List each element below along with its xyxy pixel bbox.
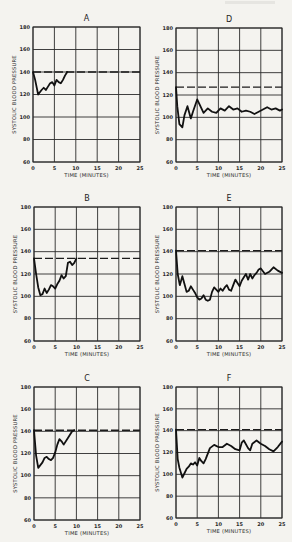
chart-f: F05101520256080100120140160180TIME (MINU… bbox=[0, 0, 292, 542]
svg-text:160: 160 bbox=[163, 406, 174, 412]
svg-text:100: 100 bbox=[163, 471, 174, 477]
x-axis-label: TIME (MINUTES) bbox=[206, 528, 251, 534]
bp-curve bbox=[176, 430, 282, 478]
y-tick-labels: 6080100120140160180 bbox=[163, 384, 174, 521]
svg-text:0: 0 bbox=[174, 521, 178, 527]
chart-title: F bbox=[227, 374, 232, 383]
svg-text:180: 180 bbox=[163, 384, 174, 390]
svg-text:140: 140 bbox=[163, 427, 174, 433]
svg-text:25: 25 bbox=[279, 521, 286, 527]
svg-text:10: 10 bbox=[215, 521, 222, 527]
chart-panel-f: F05101520256080100120140160180TIME (MINU… bbox=[0, 0, 292, 542]
y-axis-label: SYSTOLIC BLOOD PRESSURE bbox=[154, 413, 160, 492]
svg-text:60: 60 bbox=[166, 515, 173, 521]
svg-text:20: 20 bbox=[257, 521, 264, 527]
svg-text:15: 15 bbox=[236, 521, 243, 527]
svg-text:120: 120 bbox=[163, 449, 174, 455]
svg-text:5: 5 bbox=[195, 521, 199, 527]
svg-text:80: 80 bbox=[166, 493, 173, 499]
gridlines bbox=[176, 387, 282, 518]
x-tick-labels: 0510152025 bbox=[174, 521, 286, 527]
